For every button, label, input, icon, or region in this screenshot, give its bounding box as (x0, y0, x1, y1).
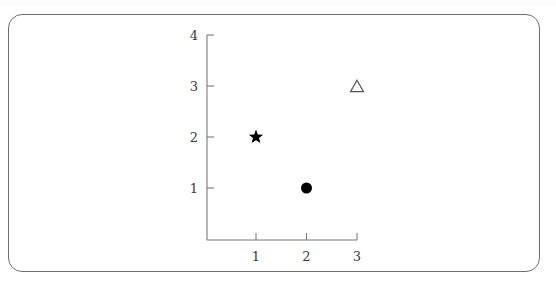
y-axis-ticks: 1234 (190, 28, 214, 196)
x-tick-label: 3 (353, 249, 361, 264)
star-point (249, 130, 263, 144)
x-axis-ticks: 123 (252, 233, 361, 264)
y-tick-label: 2 (190, 130, 198, 145)
y-tick-label: 4 (190, 28, 198, 43)
y-tick-label: 3 (190, 79, 198, 94)
x-tick-label: 2 (302, 249, 310, 264)
triangle-point (351, 80, 364, 91)
data-markers (249, 80, 364, 193)
y-tick-label: 1 (190, 181, 198, 196)
x-tick-label: 1 (252, 249, 260, 264)
scatter-plot: 1234 123 (0, 0, 556, 285)
circle-point (301, 183, 312, 194)
axes-group (207, 35, 357, 240)
